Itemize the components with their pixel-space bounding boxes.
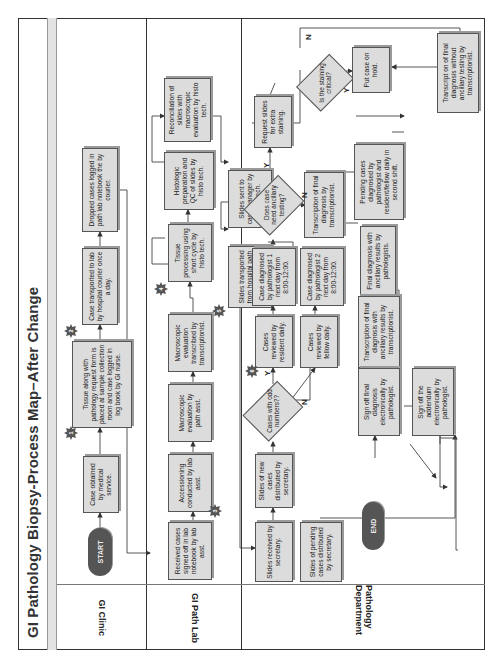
decision-ancillary: Does case need ancillary testing? [248, 170, 300, 240]
step-accessioning: Accessioning conducted by lab asst. [168, 454, 212, 512]
branch-label-yes: Y [263, 371, 272, 376]
step-pending-diagnosed: Pending cases diagnosed by pathologist a… [354, 144, 404, 220]
step-slides-pending-distributed: Slides of pending cases distributed by s… [300, 522, 342, 582]
improvement-marker-icon: 4 [154, 282, 168, 296]
step-reconciliation: Reconciliation of slides with macroscopi… [164, 78, 211, 142]
step-tissue-placed: Tissue along with pathology request form… [72, 341, 132, 428]
step-final-with-ancillary: Final diagnosis with ancillary results b… [360, 226, 396, 296]
step-diagnosed-p2: Case diagnosed by pathologist 2 next day… [300, 248, 344, 306]
start-terminal: START [88, 528, 112, 576]
step-reviewed-resident: Cases reviewed by resident daily. [255, 316, 293, 368]
improvement-marker-icon: 5 [212, 304, 226, 318]
branch-label-yes: Y [262, 163, 271, 168]
improvement-marker-icon: 2 [64, 324, 78, 338]
improvement-marker-icon: 6 [245, 364, 259, 378]
step-transcription-final: Transcription of final diagnosis by tran… [304, 172, 344, 238]
branch-label-no: N [304, 34, 313, 40]
step-sign-off-final: Sign off final diagnosis electronically … [358, 368, 400, 436]
step-case-obtained: Case obtained by medical service. [83, 456, 119, 513]
step-tissue-processing: Tissue processing using short cycle by h… [168, 224, 212, 282]
improvement-marker-icon: 3 [208, 504, 222, 518]
step-case-transported: Case transported to lab by hospital cour… [82, 248, 118, 325]
branch-label-no: N [300, 399, 309, 405]
decision-odd-numbers: Cases with odd numbers?? [247, 376, 299, 446]
process-map: GI Pathology Biopsy-Process Map–After Ch… [0, 0, 499, 668]
step-slides-received: Slides received by secretary. [255, 522, 293, 582]
step-diagnosed-p1: Case diagnosed by pathologist 1 next day… [252, 248, 296, 306]
step-request-slides: Request slides for extra staining. [254, 96, 292, 148]
end-terminal: END [362, 502, 384, 550]
step-reviewed-fellow: Cases reviewed by fellow daily. [300, 316, 338, 368]
step-macroscopic-transcribed: Macroscopic evaluation transcribed by tr… [168, 314, 212, 372]
branch-label-no: N [300, 192, 309, 198]
step-transcription-with-ancillary: Transcription of final diagnosis with an… [358, 296, 400, 368]
step-slides-new-distributed: Slides of new cases distributed by secre… [255, 454, 293, 508]
improvement-marker-icon: 1 [64, 426, 78, 440]
step-macroscopic-eval: Macroscopic evaluation by path asst. [168, 384, 212, 442]
step-dropped-logged: Dropped cases logged in path lab noteboo… [82, 148, 118, 232]
decision-staining-critical: Is the staining critical? [300, 50, 350, 116]
step-received-signed: Received cases signed off in lab noteboo… [168, 522, 212, 580]
step-sign-off-addendum: Sign off the addendum electronically by … [412, 368, 454, 436]
step-put-on-hold: Put case on hold. [352, 47, 390, 93]
branch-label-yes: Y [342, 88, 351, 93]
step-transcript-without: Transcript on of final diagnosis without… [437, 33, 479, 113]
step-histologic-prep: Histologic preparation and QC of slides … [164, 152, 214, 210]
